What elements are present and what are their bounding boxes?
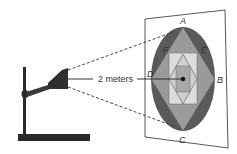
target-diagram: 2 meters A B C D E F (0, 0, 237, 154)
label-C: C (179, 135, 186, 145)
projector-device (48, 68, 68, 89)
distance-label: 2 meters (98, 74, 134, 84)
stand-base (18, 134, 90, 141)
label-F: F (163, 45, 169, 55)
label-E: E (201, 45, 208, 55)
label-B: B (217, 75, 223, 85)
stand-pole (23, 67, 26, 135)
device-arm (26, 85, 50, 97)
label-A: A (179, 16, 186, 26)
label-D: D (147, 69, 154, 79)
